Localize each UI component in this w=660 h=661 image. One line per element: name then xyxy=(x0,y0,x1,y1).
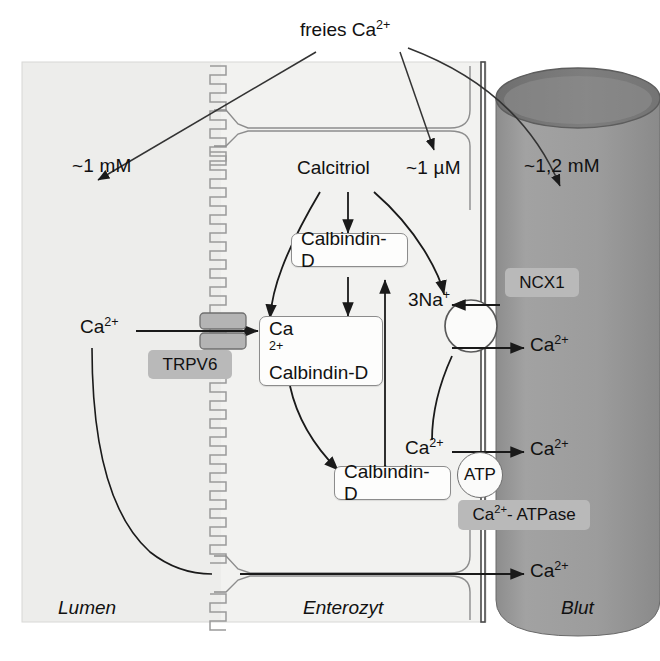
lumen-region xyxy=(22,62,221,622)
blood-concentration-label: ~1,2 mM xyxy=(524,156,600,176)
trpv6-label-tag: TRPV6 xyxy=(148,350,232,379)
ca-calbindin-ion: Ca2+ xyxy=(269,318,293,362)
ca-atpase-label-tag: Ca2+- ATPase xyxy=(458,500,590,530)
blood-calcium-atpase-label: Ca2+ xyxy=(530,438,569,460)
sodium-ion-label: 3Na+ xyxy=(408,289,450,311)
blood-compartment-label: Blut xyxy=(561,597,594,619)
calbindin-d-bottom-node: Calbindin-D xyxy=(334,466,451,500)
ca-calbindin-protein: Calbindin-D xyxy=(269,362,368,384)
calcitriol-label: Calcitriol xyxy=(297,158,370,178)
calcium-absorption-diagram: freies Ca2+ ~1 mM ~1 µM ~1,2 mM Calcitri… xyxy=(0,0,660,661)
ca-calbindin-complex-node: Ca2+ Calbindin-D xyxy=(259,316,383,386)
blood-calcium-ncx-label: Ca2+ xyxy=(530,334,569,356)
blood-calcium-paracellular-label: Ca2+ xyxy=(530,560,569,582)
calbindin-d-bottom-label: Calbindin-D xyxy=(344,461,441,505)
lumen-compartment-label: Lumen xyxy=(58,597,116,619)
atp-circle: ATP xyxy=(457,452,503,498)
cytosolic-calcium-label: Ca2+ xyxy=(405,437,444,459)
ncx1-exchanger xyxy=(445,300,497,352)
enterocyte-compartment-label: Enterozyt xyxy=(303,597,383,619)
calbindin-d-top-label: Calbindin-D xyxy=(301,228,398,272)
lumen-calcium-ion-label: Ca2+ xyxy=(80,316,119,338)
ncx1-label-tag: NCX1 xyxy=(505,268,579,297)
lumen-concentration-label: ~1 mM xyxy=(72,156,132,176)
ca-atpase-text: Ca2+- ATPase xyxy=(472,505,575,525)
blood-vessel xyxy=(496,68,660,636)
free-calcium-label: freies Ca2+ xyxy=(300,20,390,40)
calbindin-d-top-node: Calbindin-D xyxy=(291,233,408,267)
enterocyte-concentration-label: ~1 µM xyxy=(406,158,461,178)
